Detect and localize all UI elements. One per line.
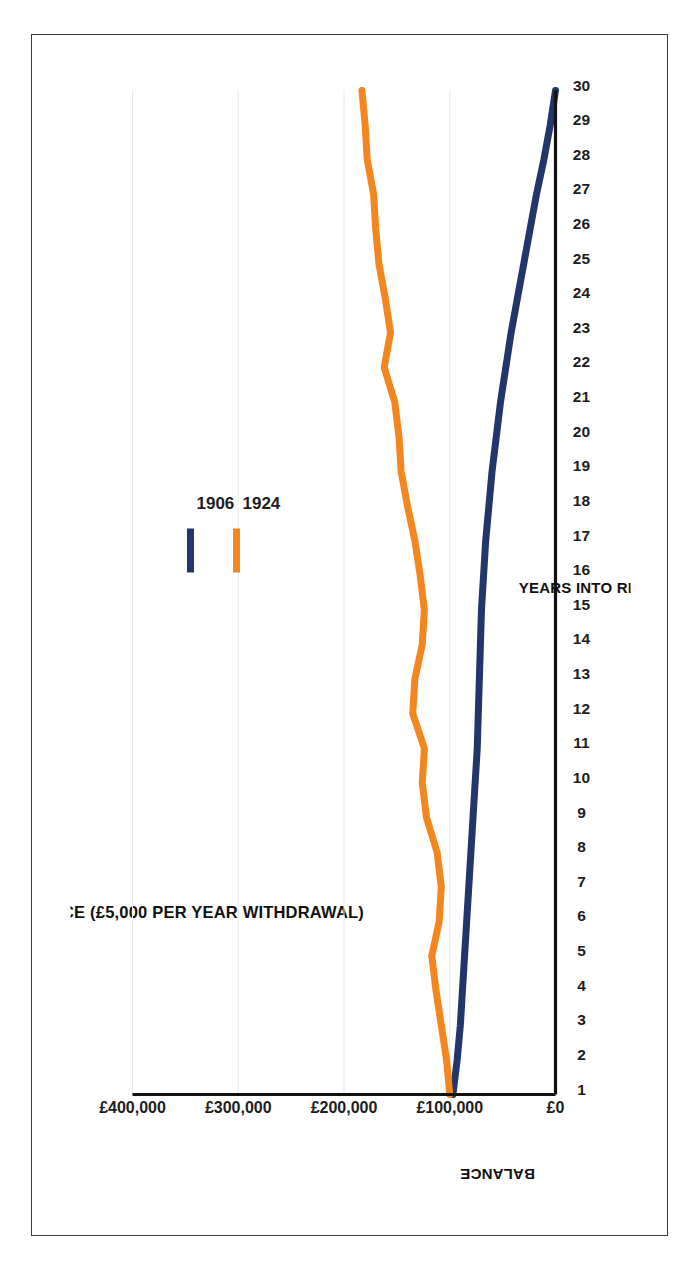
x-tick-label: 1 bbox=[577, 1081, 586, 1098]
y-tick-label: £200,000 bbox=[311, 1099, 378, 1116]
x-tick-label: 13 bbox=[573, 665, 591, 682]
y-tick-label: £100,000 bbox=[416, 1099, 483, 1116]
legend-label-1906: 1906 bbox=[197, 494, 235, 513]
y-axis-tick-labels: £0£100,000£200,000£300,000£400,000 bbox=[99, 1099, 564, 1116]
screenshot-root: NOMINAL YEAR END BALANCE (£5,000 PER YEA… bbox=[0, 0, 700, 1270]
x-tick-label: 12 bbox=[573, 700, 590, 717]
x-tick-label: 22 bbox=[573, 353, 590, 370]
x-tick-label: 20 bbox=[573, 423, 590, 440]
y-tick-label: £300,000 bbox=[205, 1099, 272, 1116]
x-tick-label: 17 bbox=[573, 527, 590, 544]
chart-title: NOMINAL YEAR END BALANCE (£5,000 PER YEA… bbox=[71, 903, 365, 921]
chart-canvas: NOMINAL YEAR END BALANCE (£5,000 PER YEA… bbox=[71, 58, 631, 1213]
x-tick-label: 18 bbox=[573, 492, 591, 509]
x-tick-label: 7 bbox=[577, 873, 586, 890]
series-line-1924 bbox=[362, 91, 450, 1095]
x-tick-label: 28 bbox=[573, 146, 591, 163]
x-tick-label: 10 bbox=[573, 769, 590, 786]
x-tick-label: 2 bbox=[577, 1046, 586, 1063]
x-tick-label: 24 bbox=[573, 284, 591, 301]
x-tick-label: 6 bbox=[577, 907, 586, 924]
x-tick-label: 14 bbox=[573, 630, 591, 647]
x-tick-label: 8 bbox=[577, 838, 586, 855]
x-tick-label: 15 bbox=[573, 596, 591, 613]
y-axis-title: BALANCE bbox=[460, 1166, 535, 1183]
x-tick-label: 29 bbox=[573, 111, 591, 128]
x-tick-label: 30 bbox=[573, 77, 590, 94]
legend-item-1924[interactable]: 1924 bbox=[237, 494, 281, 573]
x-tick-label: 11 bbox=[573, 734, 590, 751]
chart-legend[interactable]: 19061924 bbox=[191, 494, 281, 573]
legend-item-1906[interactable]: 1906 bbox=[191, 494, 235, 573]
x-tick-label: 9 bbox=[577, 804, 586, 821]
x-tick-label: 5 bbox=[577, 942, 586, 959]
y-tick-label: £400,000 bbox=[99, 1099, 166, 1116]
x-tick-label: 19 bbox=[573, 457, 591, 474]
x-tick-label: 27 bbox=[573, 180, 590, 197]
y-tick-label: £0 bbox=[547, 1099, 565, 1116]
x-tick-label: 4 bbox=[577, 977, 586, 994]
x-tick-label: 23 bbox=[573, 319, 591, 336]
x-tick-label: 21 bbox=[573, 388, 591, 405]
x-tick-label: 3 bbox=[577, 1011, 586, 1028]
x-tick-label: 16 bbox=[573, 561, 591, 578]
rotated-chart-wrapper: NOMINAL YEAR END BALANCE (£5,000 PER YEA… bbox=[0, 0, 700, 1270]
x-axis-title: YEARS INTO RETIREMENT bbox=[519, 579, 631, 596]
line-chart: NOMINAL YEAR END BALANCE (£5,000 PER YEA… bbox=[71, 58, 631, 1213]
x-tick-label: 26 bbox=[573, 215, 591, 232]
x-tick-label: 25 bbox=[573, 250, 591, 267]
gridlines bbox=[133, 91, 556, 1095]
legend-label-1924: 1924 bbox=[243, 494, 281, 513]
